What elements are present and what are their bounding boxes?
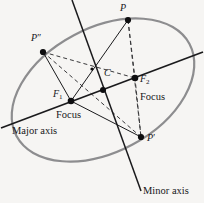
point-P-prime xyxy=(138,134,144,140)
ellipse-figure: P P′ P″ F1 F2 C Focus Focus Major axis M… xyxy=(0,0,204,203)
label-P-prime: P′ xyxy=(147,133,154,143)
label-focus-right: Focus xyxy=(140,92,165,103)
point-F1 xyxy=(68,98,75,105)
ellipse-diagram-canvas xyxy=(0,0,204,203)
segment-f1-to-pprime xyxy=(71,101,141,137)
label-minor-axis: Minor axis xyxy=(143,186,189,197)
ellipse-outline xyxy=(0,0,204,191)
dash-ppp-to-f2 xyxy=(43,52,135,78)
label-F2: F2 xyxy=(140,74,150,86)
label-focus-left: Focus xyxy=(56,110,81,121)
label-major-axis: Major axis xyxy=(12,126,57,137)
label-center-C: C xyxy=(104,68,111,78)
label-P: P xyxy=(120,3,126,13)
point-intersection xyxy=(90,67,93,70)
minor-axis-line xyxy=(72,0,141,191)
point-F2 xyxy=(132,75,139,82)
point-center-C xyxy=(100,87,106,93)
label-P-double-prime: P″ xyxy=(31,33,40,43)
marked-points xyxy=(40,17,144,140)
label-F1: F1 xyxy=(53,89,63,101)
point-P-double-prime xyxy=(40,49,46,55)
point-P xyxy=(125,17,131,23)
